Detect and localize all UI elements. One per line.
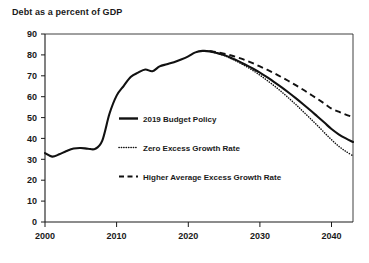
x-tick-label-2000: 2000: [35, 231, 55, 241]
series-zero-excess-growth-rate: [210, 51, 353, 155]
x-axis-ticks: [45, 222, 332, 227]
y-tick-label-80: 80: [27, 50, 37, 60]
data-series-group: [45, 51, 353, 157]
y-tick-label-30: 30: [27, 155, 37, 165]
legend-label-1: Zero Excess Growth Rate: [143, 144, 240, 153]
x-tick-label-2030: 2030: [250, 231, 270, 241]
legend-label-2: Higher Average Excess Growth Rate: [143, 173, 282, 182]
y-tick-label-60: 60: [27, 92, 37, 102]
legend-item-2019-budget-policy: 2019 Budget Policy: [119, 115, 217, 124]
x-axis-labels: 2000 2010 2020 2030 2040: [35, 231, 342, 241]
y-tick-label-50: 50: [27, 113, 37, 123]
y-tick-label-70: 70: [27, 71, 37, 81]
y-tick-label-0: 0: [32, 217, 37, 227]
series-2019-budget-policy: [45, 51, 353, 157]
x-tick-label-2040: 2040: [321, 231, 341, 241]
y-axis-labels: 0 10 20 30 40 50 60 70 80 90: [27, 29, 37, 227]
y-tick-label-90: 90: [27, 29, 37, 39]
legend-label-0: 2019 Budget Policy: [143, 115, 217, 124]
y-axis-ticks: [41, 34, 45, 222]
x-tick-label-2020: 2020: [178, 231, 198, 241]
chart-legend: 2019 Budget Policy Zero Excess Growth Ra…: [119, 115, 282, 182]
y-tick-label-10: 10: [27, 196, 37, 206]
plot-frame: [45, 34, 353, 222]
legend-item-higher-average-excess-growth-rate: Higher Average Excess Growth Rate: [119, 173, 282, 182]
chart-figure: Debt as a percent of GDP 0 10 20: [0, 0, 369, 263]
legend-item-zero-excess-growth-rate: Zero Excess Growth Rate: [119, 144, 240, 153]
x-tick-label-2010: 2010: [107, 231, 127, 241]
series-higher-average-excess-growth-rate: [210, 51, 353, 117]
y-tick-label-20: 20: [27, 175, 37, 185]
debt-to-gdp-line-chart: 0 10 20 30 40 50 60 70 80 90 2000 2010 2…: [0, 0, 369, 263]
y-tick-label-40: 40: [27, 134, 37, 144]
